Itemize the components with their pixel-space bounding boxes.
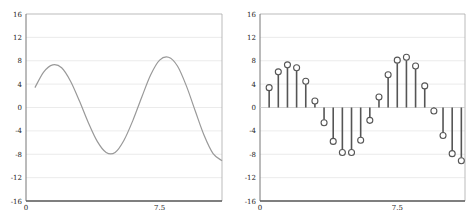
- x-tick-label: 0: [24, 204, 28, 212]
- y-tick-label: 16: [13, 11, 22, 19]
- stem-marker: [284, 62, 290, 68]
- y-tick-label: -4: [249, 127, 256, 135]
- stem-marker: [349, 149, 355, 155]
- stem-marker: [431, 108, 437, 114]
- y-tick-label: 12: [247, 34, 256, 42]
- y-tick-label: 4: [18, 81, 23, 89]
- stem-plot-panel: 1612840-4-8-12-1607.5: [245, 11, 465, 213]
- stem-marker: [330, 138, 336, 144]
- stem-marker: [376, 94, 382, 100]
- stem-marker: [385, 72, 391, 78]
- y-tick-label: 0: [252, 104, 256, 112]
- stem-marker: [458, 158, 464, 164]
- stem-marker: [358, 137, 364, 143]
- stem-marker: [303, 78, 309, 84]
- x-tick-label: 7.5: [392, 204, 403, 212]
- stem-marker: [413, 63, 419, 69]
- y-tick-label: 4: [252, 81, 257, 89]
- y-tick-label: -12: [11, 174, 22, 182]
- y-tick-label: 8: [252, 57, 256, 65]
- stem-marker: [394, 57, 400, 63]
- stem-marker: [367, 117, 373, 123]
- stem-marker: [440, 133, 446, 139]
- stem-marker: [339, 149, 345, 155]
- y-tick-label: 0: [18, 104, 22, 112]
- stem-marker: [422, 83, 428, 89]
- stem-marker: [266, 85, 272, 91]
- stem-marker: [312, 98, 318, 104]
- stem-marker: [449, 151, 455, 157]
- chart-canvas: 1612840-4-8-12-1607.5 1612840-4-8-12-160…: [0, 0, 474, 223]
- y-tick-label: 12: [13, 34, 22, 42]
- x-tick-label: 0: [258, 204, 262, 212]
- line-plot-panel: 1612840-4-8-12-1607.5: [11, 11, 222, 213]
- stem-marker: [321, 120, 327, 126]
- y-tick-label: -16: [245, 198, 257, 206]
- y-tick-label: -8: [15, 151, 22, 159]
- y-tick-label: -8: [249, 151, 256, 159]
- y-tick-label: 16: [247, 11, 256, 19]
- x-tick-label: 7.5: [154, 204, 165, 212]
- stem-marker: [275, 69, 281, 75]
- stem-marker: [403, 54, 409, 60]
- stem-marker: [294, 65, 300, 71]
- y-tick-label: 8: [18, 57, 22, 65]
- y-tick-label: -12: [245, 174, 256, 182]
- y-tick-label: -16: [11, 198, 23, 206]
- sine-line: [35, 57, 222, 161]
- y-tick-label: -4: [15, 127, 22, 135]
